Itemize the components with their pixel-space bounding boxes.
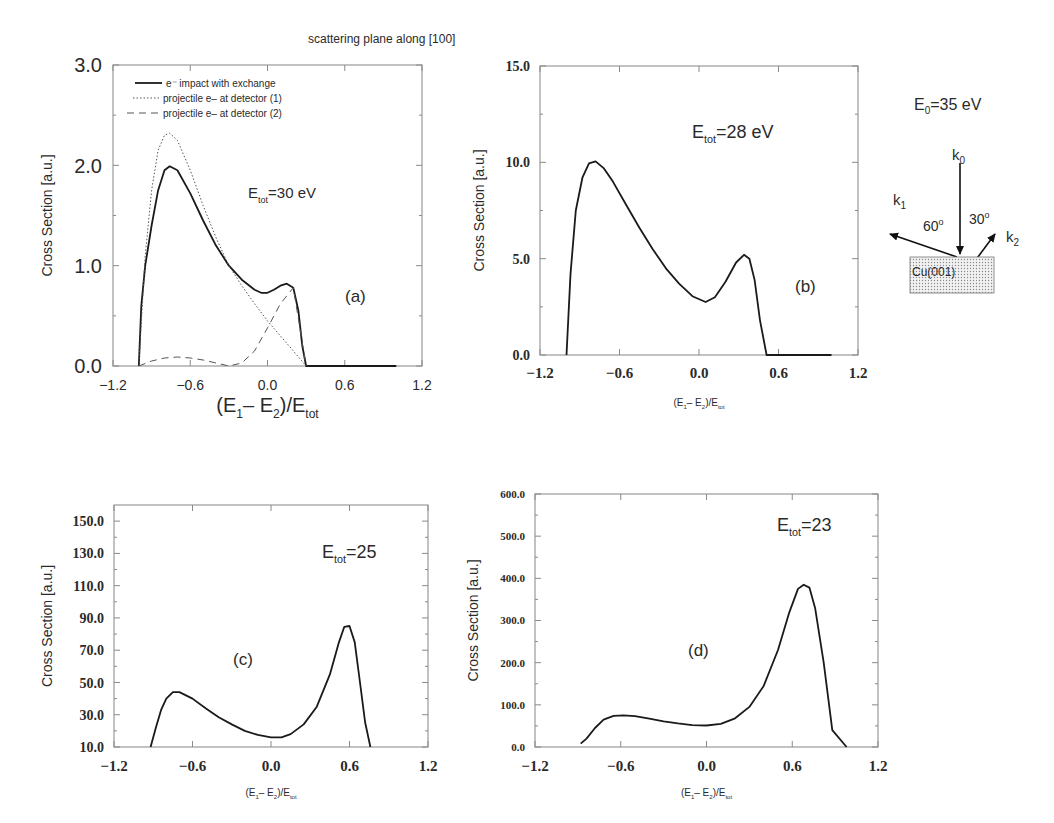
k2-label: k2: [1006, 228, 1020, 248]
y-tick-label: 200.0: [500, 657, 525, 669]
series-line-solid: [151, 626, 371, 747]
k1-label: k1: [893, 191, 907, 211]
panel-a-cross-section-30ev: −1.2−0.60.00.61.20.01.02.03.0Cross Secti…: [39, 54, 432, 421]
x-tick-label: −1.2: [99, 377, 127, 393]
x-axis-title: (E1– E2)/Etot: [673, 397, 724, 410]
y-tick-label: 0.0: [74, 355, 102, 377]
y-tick-label: 3.0: [74, 54, 102, 76]
y-tick-label: 500.0: [500, 530, 525, 542]
x-tick-label: −0.6: [176, 377, 204, 393]
x-axis-title: (E1– E2)/Etot: [216, 394, 319, 421]
energy-annotation: Etot=25: [322, 542, 377, 565]
y-tick-label: 2.0: [74, 155, 102, 177]
k1-arrow-icon: [890, 234, 957, 257]
x-tick-label: −0.6: [607, 758, 635, 774]
x-axis-title: (E1– E2)/Etot: [245, 787, 296, 800]
incident-energy-label: E0=35 eV: [914, 96, 982, 116]
y-tick-label: 100.0: [500, 699, 525, 711]
x-tick-label: 1.2: [869, 758, 888, 774]
y-tick-label: 400.0: [500, 572, 525, 584]
panel-c-cross-section-25: −1.2−0.60.00.61.210.030.050.070.090.0110…: [39, 505, 437, 800]
y-axis-title: Cross Section [a.u.]: [465, 559, 481, 681]
x-tick-label: 0.6: [335, 377, 355, 393]
y-tick-label: 15.0: [506, 59, 531, 74]
figure-title: scattering plane along [100]: [308, 32, 455, 46]
x-tick-label: 0.6: [340, 758, 359, 774]
y-tick-label: 1.0: [74, 255, 102, 277]
y-tick-label: 0.0: [511, 741, 525, 753]
y-tick-label: 70.0: [80, 643, 105, 658]
x-tick-label: −0.6: [606, 365, 634, 381]
y-tick-label: 10.0: [506, 155, 531, 170]
x-tick-label: 1.2: [419, 758, 438, 774]
scattering-geometry-diagram: E0=35 eV k0 k1 60o 30o k2 Cu(001): [890, 96, 1020, 293]
x-tick-label: 0.0: [262, 758, 281, 774]
x-tick-label: −1.2: [526, 365, 553, 381]
energy-annotation: Etot=23: [777, 515, 832, 538]
series-line-solid: [567, 161, 832, 355]
y-axis-title: Cross Section [a.u.]: [39, 565, 55, 687]
y-tick-label: 90.0: [80, 611, 105, 626]
x-axis-title: (E1– E2)/Etot: [681, 787, 732, 800]
y-tick-label: 0.0: [513, 348, 531, 363]
energy-annotation: Etot=28 eV: [692, 122, 774, 145]
x-tick-label: −1.2: [100, 758, 127, 774]
y-tick-label: 300.0: [500, 614, 525, 626]
panel-label: (b): [795, 277, 816, 296]
y-tick-label: 130.0: [73, 546, 105, 561]
x-tick-label: 0.0: [690, 365, 709, 381]
series-line-solid: [581, 585, 847, 747]
k0-label: k0: [952, 146, 966, 166]
y-tick-label: 5.0: [513, 252, 531, 267]
y-tick-label: 600.0: [500, 488, 525, 500]
figure-canvas: scattering plane along [100] −1.2−0.60.0…: [0, 0, 1054, 823]
x-tick-label: 0.6: [783, 758, 802, 774]
y-tick-label: 110.0: [73, 579, 104, 594]
angle-30-label: 30o: [969, 210, 990, 227]
y-tick-label: 150.0: [73, 514, 105, 529]
panel-label: (c): [233, 650, 253, 669]
series-line-dotted: [139, 133, 306, 366]
y-axis-title: Cross Section [a.u.]: [39, 154, 55, 276]
x-tick-label: −1.2: [521, 758, 548, 774]
x-tick-label: 0.6: [769, 365, 788, 381]
legend-label: e⁻ impact with exchange: [166, 78, 276, 89]
x-tick-label: 1.2: [412, 377, 432, 393]
panel-b-cross-section-28ev: −1.2−0.60.00.61.20.05.010.015.0Cross Sec…: [471, 59, 867, 410]
panel-d-cross-section-23: −1.2−0.60.00.61.20.0100.0200.0300.0400.0…: [465, 488, 887, 800]
legend-label: projectile e– at detector (1): [163, 93, 282, 104]
legend-label: projectile e– at detector (2): [163, 108, 282, 119]
x-tick-label: 0.0: [258, 377, 278, 393]
series-line-dashed: [139, 288, 306, 366]
panel-label: (a): [345, 287, 366, 306]
y-tick-label: 50.0: [80, 676, 105, 691]
x-tick-label: −0.6: [179, 758, 207, 774]
y-tick-label: 10.0: [80, 740, 105, 755]
plot-frame: [540, 66, 858, 355]
x-tick-label: 1.2: [849, 365, 868, 381]
surface-label: Cu(001): [912, 265, 955, 279]
y-tick-label: 30.0: [80, 708, 105, 723]
energy-annotation: Etot=30 eV: [248, 184, 316, 205]
y-axis-title: Cross Section [a.u.]: [471, 149, 487, 271]
x-tick-label: 0.0: [697, 758, 716, 774]
panel-label: (d): [688, 641, 709, 660]
angle-60-label: 60o: [923, 217, 944, 234]
